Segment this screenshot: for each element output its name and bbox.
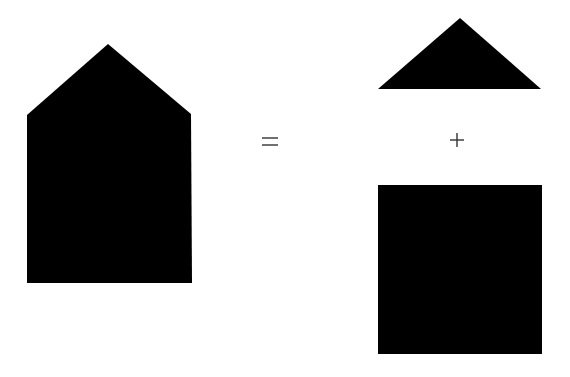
plus-sign: [450, 133, 464, 147]
equals-sign: [262, 138, 278, 145]
composite-house-shape: [27, 44, 192, 283]
diagram-canvas: [0, 0, 570, 377]
triangle-shape: [378, 18, 541, 89]
square-shape: [378, 185, 542, 354]
